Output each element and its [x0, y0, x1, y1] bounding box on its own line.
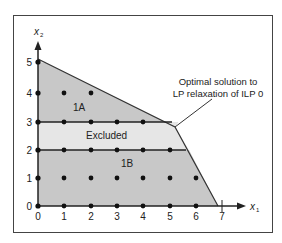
- annotation-leader-line: [175, 99, 212, 127]
- x-tick-0: 0: [35, 211, 41, 222]
- y-axis-arrow-icon: [35, 41, 42, 50]
- x-tick-4: 4: [140, 211, 146, 222]
- x-tick-2: 2: [88, 211, 94, 222]
- feasible-region-diagram: 0 1 2 3 4 5 6 7 0 1 2 3 4 5 x 2 x 1 1A E…: [0, 0, 282, 243]
- excluded-label: Excluded: [86, 130, 127, 141]
- x-tick-7: 7: [219, 211, 225, 222]
- annotation-line1: Optimal solution to: [179, 76, 258, 87]
- x-tick-6: 6: [193, 211, 199, 222]
- x-axis-arrow-icon: [237, 203, 246, 210]
- annotation-line2: LP relaxation of ILP 0: [173, 88, 264, 99]
- x-tick-1: 1: [61, 211, 67, 222]
- y-tick-3: 3: [26, 117, 32, 128]
- y-tick-0: 0: [26, 201, 32, 212]
- y-axis-label-sub: 2: [40, 32, 44, 38]
- x-tick-3: 3: [114, 211, 120, 222]
- region-1b-label: 1B: [121, 158, 134, 169]
- y-tick-1: 1: [26, 173, 32, 184]
- x-axis-label-sub: 1: [256, 207, 260, 213]
- y-tick-2: 2: [26, 145, 32, 156]
- y-tick-5: 5: [26, 57, 32, 68]
- y-axis-label: x: [33, 26, 40, 37]
- x-axis-label: x: [249, 201, 256, 212]
- y-tick-4: 4: [26, 88, 32, 99]
- region-1a-label: 1A: [73, 102, 86, 113]
- x-tick-5: 5: [167, 211, 173, 222]
